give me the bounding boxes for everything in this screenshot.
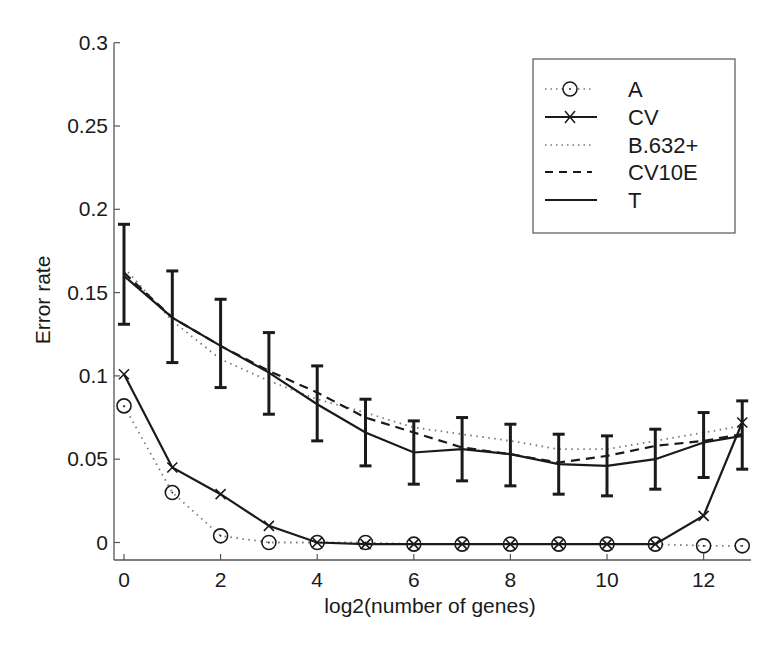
circle-marker-center bbox=[703, 545, 705, 547]
legend-label-t: T bbox=[628, 188, 641, 213]
circle-marker-center bbox=[268, 542, 270, 544]
y-tick-label: 0.2 bbox=[79, 197, 108, 220]
y-tick-label: 0.3 bbox=[79, 31, 108, 54]
x-marker-icon bbox=[264, 521, 274, 531]
circle-marker-center bbox=[569, 88, 571, 90]
x-marker-icon bbox=[216, 489, 226, 499]
series-layer bbox=[117, 224, 749, 553]
error-bar bbox=[360, 399, 372, 466]
x-tick-label: 10 bbox=[595, 568, 618, 591]
series-a-line bbox=[124, 406, 742, 546]
circle-marker-center bbox=[171, 492, 173, 494]
error-bar bbox=[311, 366, 323, 441]
x-tick-label: 6 bbox=[408, 568, 420, 591]
circle-marker-center bbox=[741, 545, 743, 547]
legend-label-cv: CV bbox=[628, 105, 659, 130]
legend-label-b632: B.632+ bbox=[628, 133, 698, 158]
x-marker-icon bbox=[167, 463, 177, 473]
y-tick-label: 0.25 bbox=[67, 114, 108, 137]
y-tick-label: 0.15 bbox=[67, 281, 108, 304]
error-rate-chart: 00.050.10.150.20.250.3024681012 log2(num… bbox=[0, 0, 781, 654]
legend: A CV B.632+ CV10E T bbox=[533, 59, 735, 233]
x-tick-label: 4 bbox=[311, 568, 323, 591]
y-tick-label: 0 bbox=[96, 531, 108, 554]
x-tick-label: 2 bbox=[215, 568, 227, 591]
series-b632-line bbox=[124, 268, 742, 450]
legend-label-cv10e: CV10E bbox=[628, 160, 698, 185]
x-tick-label: 8 bbox=[505, 568, 517, 591]
circle-marker-center bbox=[220, 535, 222, 537]
x-axis-label: log2(number of genes) bbox=[324, 594, 535, 617]
error-bar bbox=[118, 224, 130, 324]
y-tick-label: 0.05 bbox=[67, 447, 108, 470]
x-tick-label: 0 bbox=[118, 568, 130, 591]
x-tick-label: 12 bbox=[692, 568, 715, 591]
legend-label-a: A bbox=[628, 77, 643, 102]
series-t-line bbox=[124, 276, 742, 466]
x-marker-icon bbox=[699, 511, 709, 521]
y-axis-label: Error rate bbox=[31, 256, 54, 345]
circle-marker-center bbox=[123, 405, 125, 407]
x-marker-icon bbox=[119, 369, 129, 379]
y-tick-label: 0.1 bbox=[79, 364, 108, 387]
series-cv10e-line bbox=[124, 273, 742, 463]
